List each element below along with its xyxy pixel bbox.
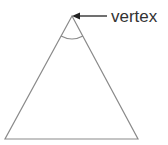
vertex-angle-arc [61,36,83,39]
vertex-label: vertex [111,7,158,26]
triangle-diagram: vertex [0,0,168,145]
triangle [5,16,138,139]
